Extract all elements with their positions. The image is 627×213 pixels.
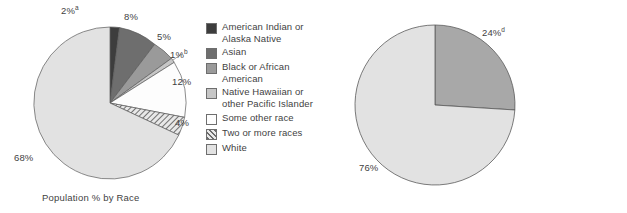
legend-item-american-indian: American Indian or Alaska Native: [206, 21, 313, 44]
pie-label-two-or-more-races: 4%: [175, 117, 189, 128]
dual-pie-chart-figure: 2%a 8% 5% 1%b 12% 4% 68% American Indian…: [0, 0, 627, 213]
legend-item-black-african-american: Black or African American: [206, 61, 313, 84]
legend-swatch-black-african-american: [206, 63, 217, 74]
legend-swatch-american-indian: [206, 23, 217, 34]
hispanic-chart-panel: 24%d 76% Hispanic or Latinoc Non-Hispani…: [320, 0, 627, 213]
legend-item-asian: Asian: [206, 46, 313, 59]
pie-label-asian: 8%: [124, 11, 138, 22]
legend-label-white: White: [222, 142, 247, 154]
pie-label-black-african-american: 5%: [157, 31, 171, 42]
legend-item-two-or-more-races: Two or more races: [206, 127, 313, 140]
legend-label-native-hawaiian: Native Hawaiian or other Pacific Islande…: [222, 86, 313, 109]
pie-label-hispanic-or-latino: 24%d: [482, 27, 505, 38]
legend-label-black-african-american: Black or African American: [222, 61, 290, 84]
legend-swatch-two-or-more-races: [206, 129, 217, 140]
pie-label-some-other-race: 12%: [172, 76, 191, 87]
legend-label-some-other-race: Some other race: [222, 112, 294, 124]
legend-label-two-or-more-races: Two or more races: [222, 127, 302, 139]
race-chart-panel: 2%a 8% 5% 1%b 12% 4% 68% American Indian…: [0, 0, 320, 213]
legend-item-white: White: [206, 142, 313, 155]
legend-swatch-some-other-race: [206, 114, 217, 125]
race-chart-caption: Population % by Race: [42, 192, 139, 203]
legend-label-asian: Asian: [222, 46, 246, 58]
legend-swatch-asian: [206, 48, 217, 59]
legend-swatch-native-hawaiian: [206, 88, 217, 99]
legend-swatch-white: [206, 144, 217, 155]
pie-label-american-indian: 2%a: [61, 5, 79, 16]
race-chart-legend: American Indian or Alaska Native Asian B…: [206, 21, 313, 157]
legend-item-some-other-race: Some other race: [206, 112, 313, 125]
legend-item-native-hawaiian: Native Hawaiian or other Pacific Islande…: [206, 86, 313, 109]
legend-label-american-indian: American Indian or Alaska Native: [222, 21, 304, 44]
pie-label-non-hispanic: 76%: [359, 162, 378, 173]
pie-label-white: 68%: [14, 152, 33, 163]
pie-label-native-hawaiian: 1%b: [170, 49, 188, 60]
